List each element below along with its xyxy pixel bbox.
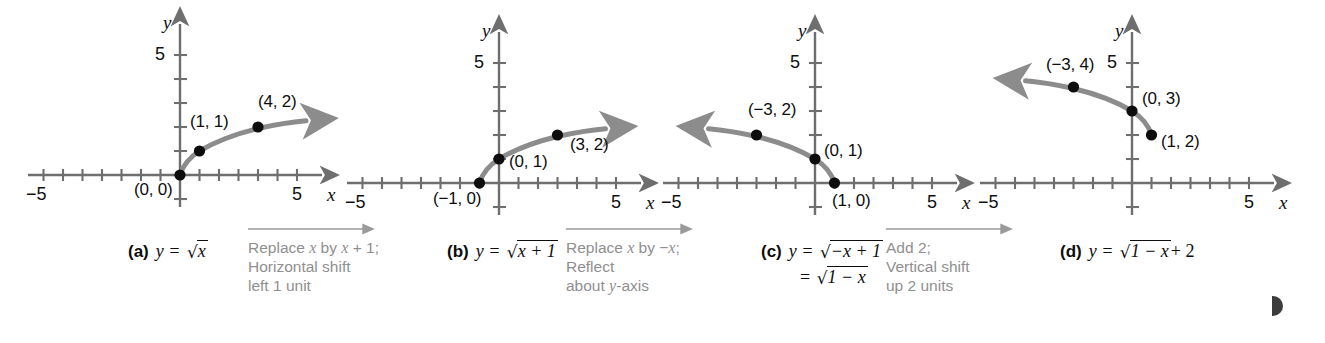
panel-b-y-axis-name: y [482,20,490,42]
step-2-line-3: about y-axis [566,276,680,295]
caption-c-line2: = √1 − x [800,266,868,288]
point-a-1-1 [194,145,205,156]
caption-b-tag: (b) [447,242,469,261]
step-1-line-2: Horizontal shift [248,257,379,276]
caption-c-equation-alt: = √1 − x [800,267,868,287]
panel-b-axes [347,32,641,215]
caption-b: (b)y = √x + 1 [447,240,558,262]
point-a-0-0 [174,169,185,180]
step-1-text: Replace x by x + 1; Horizontal shift lef… [248,238,379,295]
caption-d-suffix: + 2 [1171,241,1195,261]
panel-c-axes [663,32,957,215]
step-1-line-3: left 1 unit [248,276,379,295]
caption-d-equation: y = √1 − x+ 2 [1089,241,1195,261]
step-3-line-1: Add 2; [886,238,970,257]
panel-a-axes [28,24,322,207]
caption-b-radicand: x + 1 [517,240,558,262]
panel-d-x-tick-neg5: −5 [978,192,999,213]
panel-c-point-label-neg3-2: (−3, 2) [748,100,796,120]
panel-a-x-axis-name: x [327,184,335,206]
point-b-0-1 [493,153,504,164]
panel-d-point-label-1-2: (1, 2) [1161,132,1199,152]
panel-c-x-axis-name: x [962,192,970,214]
panel-c-point-label-1-0: (1, 0) [832,191,870,211]
panel-a-point-label-4-2: (4, 2) [258,92,296,112]
step-2-line-2: Reflect [566,257,680,276]
panel-a-point-label-0-0: (0, 0) [134,180,172,200]
point-c-0-1 [809,153,820,164]
point-d-0-3 [1126,105,1137,116]
panel-a-x-tick-5: 5 [292,184,302,205]
caption-a-tag: (a) [128,242,149,261]
panel-a-point-label-1-1: (1, 1) [190,112,228,132]
panel-b-point-label-0-1: (0, 1) [509,152,547,172]
panel-a-y-axis-name: y [163,12,171,34]
panel-c-y-axis-name: y [798,20,806,42]
panel-b-point-label-3-2: (3, 2) [570,135,608,155]
panel-d-y-axis-name: y [1115,20,1123,42]
panel-a-y-tick-5: 5 [155,44,165,65]
panel-d-point-label-0-3: (0, 3) [1142,89,1180,109]
caption-a-radicand: x [197,240,208,262]
point-d-1-2 [1146,129,1157,140]
point-a-4-2 [252,121,263,132]
step-3-text: Add 2; Vertical shift up 2 units [886,238,970,295]
caption-a-equation: y = √x [156,241,208,261]
caption-c-radicand-alt: 1 − x [827,266,868,288]
caption-a: (a)y = √x [128,240,208,262]
point-d-neg3-4 [1068,81,1079,92]
point-c-neg3-2 [751,129,762,140]
step-3-line-3: up 2 units [886,276,970,295]
panel-d-axes [980,32,1274,215]
point-b-3-2 [552,129,563,140]
point-c-1-0 [829,177,840,188]
step-2-text: Replace x by −x; Reflect about y-axis [566,238,680,295]
panel-c-x-tick-neg5: −5 [661,192,682,213]
caption-c-radicand: −x + 1 [830,240,883,262]
panel-c-point-label-0-1: (0, 1) [824,141,862,161]
panel-b-point-label-neg1-0: (−1, 0) [433,189,481,209]
panel-b-x-tick-5: 5 [611,192,621,213]
panel-d-y-tick-5: 5 [1107,52,1117,73]
panel-d-point-label-neg3-4: (−3, 4) [1046,55,1094,75]
panel-d-x-tick-5: 5 [1244,192,1254,213]
point-b-neg1-0 [474,177,485,188]
caption-c-tag: (c) [761,242,782,261]
step-2-line-1: Replace x by −x; [566,238,680,257]
caption-b-equation: y = √x + 1 [476,241,558,261]
step-3-line-2: Vertical shift [886,257,970,276]
panel-b-y-tick-5: 5 [474,52,484,73]
panel-d-x-axis-name: x [1279,192,1287,214]
caption-c: (c)y = √−x + 1 [761,240,883,262]
transformations-figure: y x 5 −5 5 (0, 0) (1, 1) (4, 2) y x 5 −5… [0,0,1325,343]
caption-d-radicand: 1 − x [1130,240,1171,262]
panel-b-x-tick-neg5: −5 [345,192,366,213]
panel-b-x-axis-name: x [646,192,654,214]
caption-c-equation: y = √−x + 1 [789,241,883,261]
step-1-line-1: Replace x by x + 1; [248,238,379,257]
caption-d-tag: (d) [1060,242,1082,261]
caption-d: (d)y = √1 − x+ 2 [1060,240,1195,262]
panel-c-x-tick-5: 5 [927,192,937,213]
panel-a-x-tick-neg5: −5 [26,184,47,205]
panel-c-y-tick-5: 5 [790,52,800,73]
